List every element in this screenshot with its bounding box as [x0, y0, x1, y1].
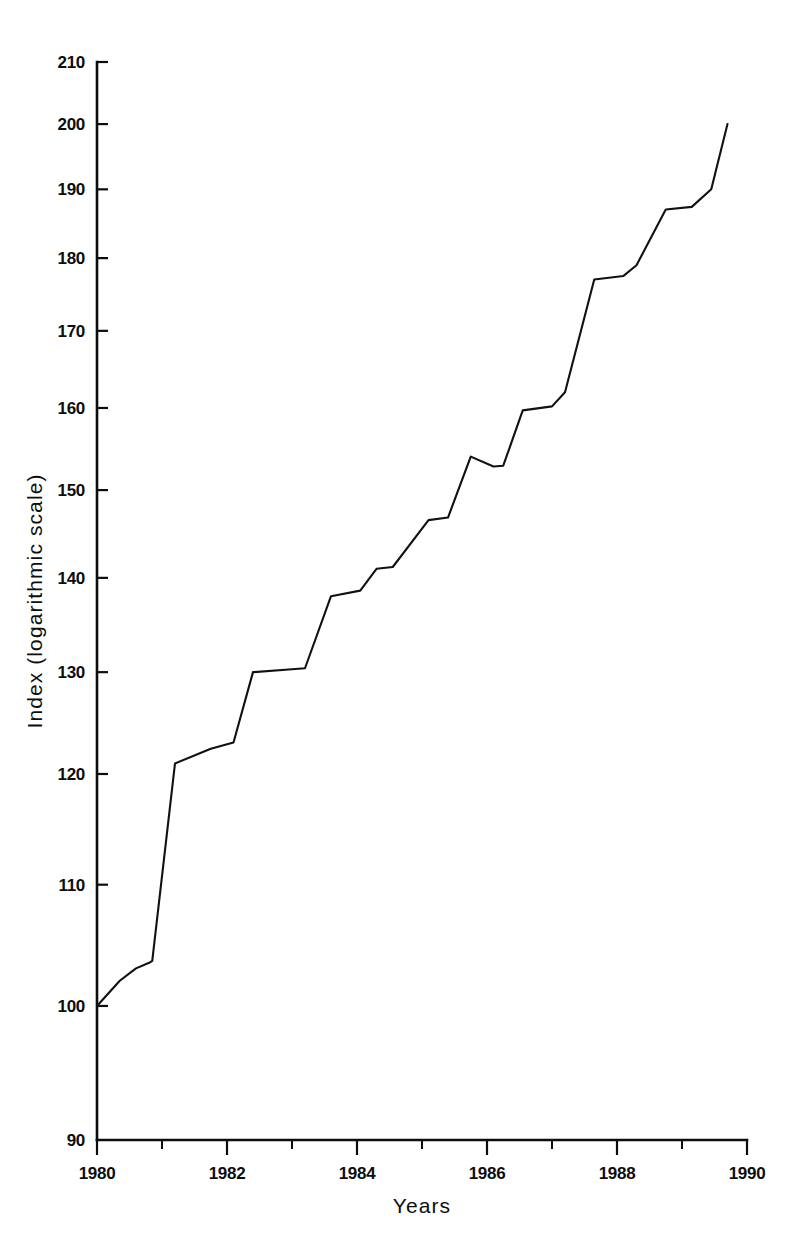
y-tick-label-90: 90: [67, 1131, 85, 1150]
y-tick-label-190: 190: [58, 180, 85, 199]
y-tick-label-210: 210: [58, 53, 85, 72]
y-tick-label-140: 140: [58, 569, 85, 588]
y-tick-label-150: 150: [58, 481, 85, 500]
y-tick-label-170: 170: [58, 322, 85, 341]
y-axis-ticks: [97, 62, 108, 1140]
line-chart: 90100110120130140150160170180190200210 1…: [0, 0, 803, 1256]
y-tick-label-200: 200: [58, 115, 85, 134]
y-tick-label-110: 110: [58, 876, 85, 895]
x-axis-title: Years: [393, 1194, 451, 1217]
y-tick-label-130: 130: [58, 663, 85, 682]
y-tick-label-120: 120: [58, 765, 85, 784]
x-tick-label-1988: 1988: [599, 1164, 636, 1183]
x-tick-label-1980: 1980: [79, 1164, 116, 1183]
axis-lines: [97, 62, 747, 1140]
data-series-group: [97, 124, 728, 1006]
figure-container: 90100110120130140150160170180190200210 1…: [0, 0, 803, 1256]
x-tick-label-1984: 1984: [339, 1164, 376, 1183]
x-axis-tick-labels: 198019821984198619881990: [79, 1164, 766, 1183]
data-line-index: [97, 124, 728, 1006]
y-tick-label-100: 100: [58, 997, 85, 1016]
y-tick-label-160: 160: [58, 399, 85, 418]
x-tick-label-1986: 1986: [469, 1164, 506, 1183]
x-axis-ticks: [97, 1140, 747, 1155]
y-tick-label-180: 180: [58, 249, 85, 268]
y-axis-title: Index (logarithmic scale): [23, 473, 46, 728]
x-tick-label-1990: 1990: [729, 1164, 766, 1183]
y-axis-tick-labels: 90100110120130140150160170180190200210: [58, 53, 85, 1150]
x-tick-label-1982: 1982: [209, 1164, 246, 1183]
